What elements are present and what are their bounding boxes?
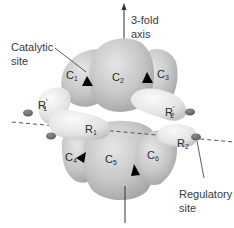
regulatory-site-pointer-line bbox=[197, 141, 204, 178]
regulatory-site-label-line1: Regulatory bbox=[179, 188, 232, 200]
subunit-c2-label: C2 bbox=[112, 72, 124, 86]
subunit-c5-label: C5 bbox=[105, 154, 117, 168]
subunit-r1p-label: R′1 bbox=[38, 96, 47, 114]
subunit-r2p-label: R′2 bbox=[165, 103, 174, 121]
subunit-c3-label: C3 bbox=[157, 69, 169, 83]
catalytic-site-label: Catalytic site bbox=[11, 41, 53, 67]
subunit-c4-label: C4 bbox=[65, 152, 77, 166]
subunit-r2-label: R2 bbox=[177, 138, 189, 152]
subunit-c6-label: C6 bbox=[147, 150, 159, 164]
regulatory-site-dot-r2p bbox=[185, 109, 195, 116]
regulatory-site-label-line2: site bbox=[179, 202, 232, 214]
catalytic-site-label-line1: Catalytic bbox=[11, 41, 53, 53]
three-fold-axis-label: 3-fold axis bbox=[131, 14, 159, 40]
regulatory-site-dot-r1p bbox=[23, 110, 33, 117]
atcase-structure-diagram: Catalytic site 3-fold axis Regulatory si… bbox=[0, 0, 234, 228]
regulatory-site-label: Regulatory site bbox=[179, 188, 232, 214]
regulatory-site-dot-r2 bbox=[191, 134, 201, 141]
catalytic-site-label-line2: site bbox=[11, 55, 53, 67]
subunit-c1-label: C1 bbox=[66, 70, 78, 84]
subunit-r1-shape bbox=[49, 110, 111, 140]
three-fold-axis-label-line2: axis bbox=[131, 28, 159, 40]
subunit-r2p-shape bbox=[131, 89, 187, 121]
subunit-r1-label: R1 bbox=[85, 124, 97, 138]
three-fold-axis-label-line1: 3-fold bbox=[131, 14, 159, 26]
regulatory-site-dot-r1 bbox=[46, 133, 56, 140]
